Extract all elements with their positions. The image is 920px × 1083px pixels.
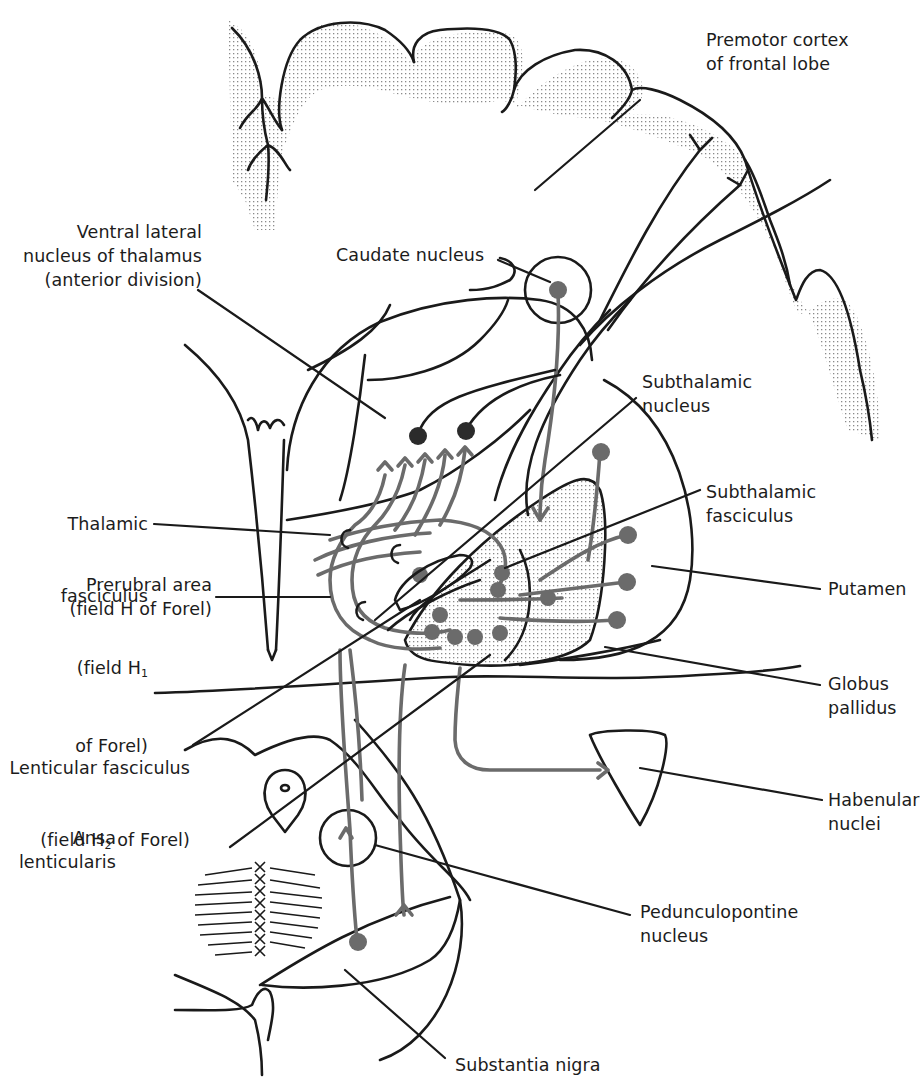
teardrop-structure: [265, 770, 306, 832]
label-pedunculopontine-nucleus: Pedunculopontine nucleus: [640, 900, 798, 948]
label-ventral-lateral-nucleus: Ventral lateral nucleus of thalamus (ant…: [10, 220, 202, 292]
label-subthalamic-nucleus: Subthalamic nucleus: [642, 370, 752, 418]
midbrain-boundary: [155, 666, 800, 900]
label-caudate-nucleus: Caudate nucleus: [336, 243, 484, 267]
thalamic-neuron-cell-bodies: [409, 370, 560, 445]
label-subthalamic-fasciculus: Subthalamic fasciculus: [706, 480, 816, 528]
label-putamen: Putamen: [828, 577, 907, 601]
label-thalamic-fasciculus-line3: (field H1: [10, 656, 148, 686]
label-substantia-nigra: Substantia nigra: [455, 1053, 601, 1077]
label-prerubral-area: Prerubral area (field H of Forel): [10, 573, 212, 621]
subscript-1: 1: [141, 667, 148, 680]
label-ansa-lenticularis: Ansa lenticularis: [10, 826, 116, 874]
habenular-triangle: [590, 730, 666, 825]
decussation-hatching: [195, 862, 322, 956]
label-globus-pallidus: Globus pallidus: [828, 672, 897, 720]
field-h-text: (field H: [77, 658, 141, 678]
label-thalamic-fasciculus-line1: Thalamic: [10, 512, 148, 536]
label-premotor-cortex: Premotor cortex of frontal lobe: [706, 28, 849, 76]
of-forel-text: of Forel): [112, 830, 190, 850]
label-lenticular-line1: Lenticular fasciculus: [0, 756, 190, 780]
label-habenular-nuclei: Habenular nuclei: [828, 788, 920, 836]
